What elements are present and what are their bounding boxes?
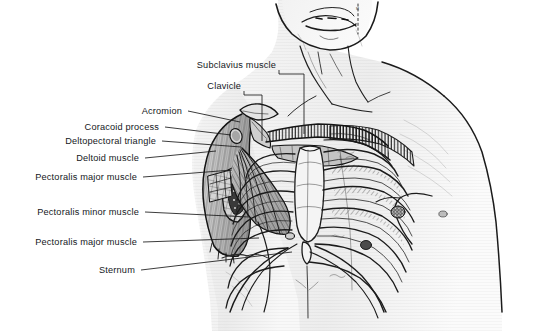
label-clavicle: Clavicle (207, 81, 241, 92)
label-pectoralis-major-muscle-upper: Pectoralis major muscle (35, 172, 137, 183)
label-coracoid-process: Coracoid process (85, 122, 159, 133)
label-subclavius-muscle: Subclavius muscle (197, 60, 276, 71)
label-acromion: Acromion (142, 106, 182, 117)
label-pectoralis-major-muscle-lower: Pectoralis major muscle (35, 237, 137, 248)
figure-canvas: M (0, 0, 540, 331)
label-layer: Subclavius muscle Clavicle Acromion Cora… (0, 0, 540, 331)
label-deltopectoral-triangle: Deltopectoral triangle (65, 136, 156, 147)
label-deltoid-muscle: Deltoid muscle (76, 153, 139, 164)
label-sternum: Sternum (99, 265, 135, 276)
label-pectoralis-minor-muscle: Pectoralis minor muscle (37, 207, 139, 218)
